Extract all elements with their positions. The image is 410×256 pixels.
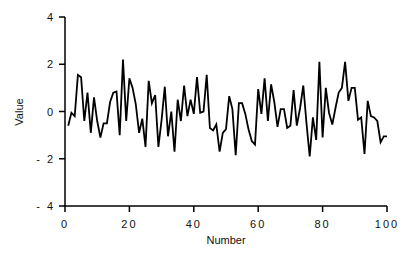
y-axis: 420- 2- 4 [36,11,65,212]
data-line [68,60,387,157]
y-tick-label: - 2 [36,153,55,165]
x-tick-label: 100 [375,218,399,230]
y-tick-label: 4 [47,11,55,23]
y-tick-label: - 4 [36,200,55,212]
x-tick-label: 0 [61,218,69,230]
line-chart: 420- 2- 4 020406080100 Number Value [0,0,410,256]
x-tick-label: 20 [121,218,137,230]
x-axis-label: Number [206,234,245,246]
x-tick-label: 60 [250,218,266,230]
x-tick-label: 40 [186,218,202,230]
x-axis: 020406080100 [61,206,399,230]
y-tick-label: 2 [47,58,55,70]
x-tick-label: 80 [314,218,330,230]
y-axis-label: Value [13,98,25,125]
y-tick-label: 0 [47,106,55,118]
